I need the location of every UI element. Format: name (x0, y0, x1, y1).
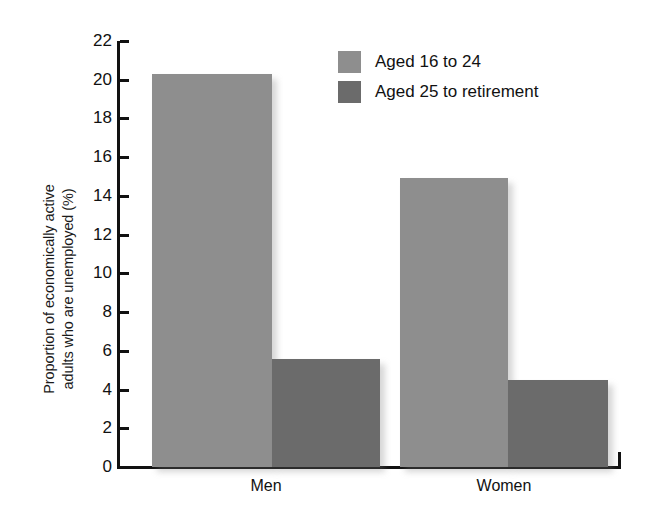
y-axis-tick-mark (120, 117, 129, 120)
y-axis-tick-mark (120, 234, 129, 237)
y-axis-tick-mark (120, 311, 129, 314)
y-axis-tick-mark (120, 40, 129, 43)
x-axis-line (117, 466, 621, 469)
legend: Aged 16 to 24Aged 25 to retirement (338, 48, 538, 108)
bar-shadow (277, 364, 385, 472)
bar (272, 359, 380, 467)
y-axis-tick-label-wrap: 8 (68, 303, 112, 320)
bar-shadow (157, 79, 277, 472)
bar (400, 178, 508, 467)
y-axis-tick-label-wrap: 22 (68, 32, 112, 49)
y-axis-tick-mark (120, 79, 129, 82)
y-axis-tick-mark (120, 272, 129, 275)
x-axis-group-divider-tick (377, 452, 380, 467)
y-axis-tick-label: 8 (72, 303, 112, 320)
bar-shadow (405, 183, 513, 472)
bar-chart: Proportion of economically active adults… (0, 0, 659, 517)
y-axis-tick-mark (120, 195, 129, 198)
x-axis-right-cap (618, 452, 621, 469)
y-axis-tick-label: 10 (72, 264, 112, 281)
y-axis-tick-label-wrap: 4 (68, 381, 112, 398)
legend-item: Aged 16 to 24 (338, 48, 538, 75)
y-axis-tick-mark (120, 350, 129, 353)
y-axis-tick-label: 20 (72, 71, 112, 88)
y-axis-tick-label: 22 (72, 32, 112, 49)
y-axis-tick-label: 4 (72, 381, 112, 398)
y-axis-tick-label-wrap: 10 (68, 264, 112, 281)
y-axis-tick-label-wrap: 14 (68, 187, 112, 204)
y-axis-tick-label-wrap: 18 (68, 109, 112, 126)
x-axis-category-label: Men (196, 477, 336, 495)
y-axis-tick-label-wrap: 20 (68, 71, 112, 88)
legend-swatch-icon (338, 51, 361, 73)
y-axis-tick-label: 14 (72, 187, 112, 204)
y-axis-tick-label: 12 (72, 226, 112, 243)
y-axis-tick-label-wrap: 6 (68, 342, 112, 359)
y-axis-tick-label-wrap: 0 (68, 458, 112, 475)
legend-item-label: Aged 16 to 24 (375, 52, 481, 71)
y-axis-tick-mark (120, 427, 129, 430)
legend-swatch-icon (338, 81, 361, 103)
bar-shadow (513, 385, 613, 472)
y-axis-tick-label-wrap: 12 (68, 226, 112, 243)
y-axis-line (117, 41, 120, 469)
x-axis-left-cap (117, 452, 120, 468)
y-axis-title-line-1: Proportion of economically active (40, 99, 59, 479)
bar (508, 380, 608, 467)
y-axis-tick-label: 18 (72, 109, 112, 126)
y-axis-tick-label-wrap: 16 (68, 148, 112, 165)
bar (152, 74, 272, 467)
y-axis-tick-label: 0 (72, 458, 112, 475)
y-axis-tick-mark (120, 389, 129, 392)
y-axis-tick-mark (120, 156, 129, 159)
y-axis-tick-label: 6 (72, 342, 112, 359)
x-axis-category-label: Women (434, 477, 574, 495)
y-axis-tick-label: 16 (72, 148, 112, 165)
legend-item: Aged 25 to retirement (338, 78, 538, 105)
legend-item-label: Aged 25 to retirement (375, 82, 538, 101)
y-axis-tick-label: 2 (72, 419, 112, 436)
y-axis-tick-label-wrap: 2 (68, 419, 112, 436)
